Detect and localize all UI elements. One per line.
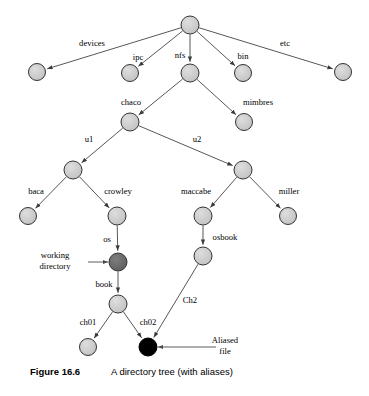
- edge-label-miller: miller: [279, 186, 300, 196]
- edge-label-bin: bin: [238, 51, 250, 61]
- figure-container: devicesipcnfsbinetcchacomimbresu1u2bacac…: [0, 0, 369, 396]
- tree-node-root[interactable]: [181, 16, 199, 34]
- edge-labels-layer: devicesipcnfsbinetcchacomimbresu1u2bacac…: [28, 38, 299, 327]
- tree-node-ch01[interactable]: [80, 339, 97, 356]
- tree-node-os[interactable]: [109, 253, 127, 271]
- tree-node-ipc[interactable]: [122, 65, 139, 82]
- edge-label-ch02: Ch2: [183, 295, 197, 305]
- edge-label-crowley: crowley: [104, 186, 132, 196]
- tree-edge-chaco-to-u2: [139, 126, 233, 166]
- callout-label-working-directory-line1: working: [41, 250, 70, 260]
- edge-label-osbook: osbook: [213, 232, 239, 242]
- callout-label-working-directory-line2: directory: [39, 261, 71, 271]
- tree-edge-u2-to-maccabe: [210, 177, 236, 207]
- tree-node-mimbres[interactable]: [236, 114, 253, 131]
- callout-working-directory: workingdirectory: [39, 250, 108, 271]
- edge-label-etc: etc: [280, 38, 290, 48]
- tree-node-u1[interactable]: [64, 161, 82, 179]
- callout-aliased-file: Aliasedfile: [158, 335, 239, 356]
- tree-node-maccabe[interactable]: [194, 207, 212, 225]
- tree-edge-nfs-to-chaco: [139, 79, 183, 115]
- edge-label-mimbres: mimbres: [243, 97, 274, 107]
- tree-edge-nfs-to-mimbres: [197, 79, 236, 114]
- tree-node-crowley[interactable]: [108, 207, 126, 225]
- tree-node-osbook[interactable]: [194, 247, 212, 265]
- edge-label-book: book: [95, 279, 113, 289]
- edge-label-devices: devices: [79, 38, 105, 48]
- tree-edge-u2-to-miller: [250, 177, 281, 209]
- tree-node-u2[interactable]: [234, 161, 252, 179]
- edge-label-u2: u2: [193, 134, 202, 144]
- edge-label-ch02: ch02: [140, 317, 157, 327]
- callout-label-aliased-file-line1: Aliased: [212, 335, 239, 345]
- edge-label-chaco: chaco: [121, 97, 141, 107]
- edge-label-maccabe: maccabe: [181, 186, 211, 196]
- tree-edge-crowley-to-os: [117, 225, 118, 250]
- tree-edge-root-to-ipc: [138, 31, 182, 66]
- tree-edge-book-to-ch01: [94, 312, 112, 338]
- callout-label-aliased-file-line2: file: [219, 346, 231, 356]
- edge-label-nfs: nfs: [175, 50, 186, 60]
- tree-node-bin[interactable]: [235, 65, 252, 82]
- tree-node-book[interactable]: [109, 295, 127, 313]
- edge-label-ch01: ch01: [80, 317, 97, 327]
- tree-node-devices[interactable]: [29, 64, 46, 81]
- edge-label-baca: baca: [28, 186, 44, 196]
- directory-tree-diagram: devicesipcnfsbinetcchacomimbresu1u2bacac…: [0, 0, 369, 396]
- edge-label-ipc: ipc: [133, 52, 144, 62]
- tree-node-baca[interactable]: [20, 208, 37, 225]
- edge-label-os: os: [103, 234, 111, 244]
- caption-number: Figure 16.6: [30, 366, 80, 377]
- callouts-layer: workingdirectoryAliasedfile: [39, 250, 238, 356]
- tree-node-nfs[interactable]: [181, 64, 199, 82]
- tree-edge-root-to-bin: [197, 31, 235, 65]
- tree-node-etc[interactable]: [335, 64, 352, 81]
- edge-label-u1: u1: [85, 134, 94, 144]
- tree-node-chaco[interactable]: [121, 113, 139, 131]
- figure-caption: Figure 16.6 A directory tree (with alias…: [30, 366, 233, 377]
- caption-title: A directory tree (with aliases): [111, 366, 233, 377]
- tree-edge-root-to-etc: [199, 28, 333, 69]
- tree-node-miller[interactable]: [280, 208, 297, 225]
- tree-node-ch02[interactable]: [139, 338, 157, 356]
